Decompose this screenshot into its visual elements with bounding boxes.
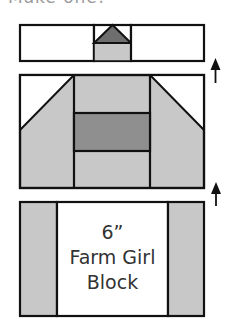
left-strip	[20, 202, 57, 316]
arrow-up-icon	[211, 182, 221, 206]
top-right-white-rect	[131, 25, 204, 61]
block-name-line2: Block	[57, 270, 168, 295]
center-block-label: 6” Farm Girl Block	[57, 220, 168, 295]
arrow-up-icon	[211, 58, 221, 83]
flying-geese-light-base	[94, 43, 131, 61]
block-name-line1: Farm Girl	[57, 245, 168, 270]
right-strip	[168, 202, 204, 316]
middle-row	[20, 75, 204, 188]
center-dark-rect	[74, 113, 150, 151]
block-size-label: 6”	[57, 220, 168, 245]
top-row	[20, 25, 204, 61]
top-left-white-rect	[20, 25, 94, 61]
